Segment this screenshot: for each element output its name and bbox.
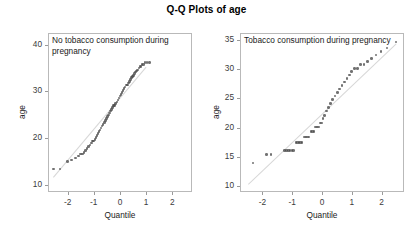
x-tick-mark bbox=[292, 192, 293, 195]
y-tick-mark bbox=[45, 138, 48, 139]
x-tick-mark bbox=[352, 192, 353, 195]
data-point bbox=[343, 81, 346, 84]
x-tick-mark bbox=[322, 192, 323, 195]
x-tick-label: -2 bbox=[250, 197, 274, 207]
data-point bbox=[70, 159, 73, 162]
data-point bbox=[346, 77, 349, 80]
x-tick-mark bbox=[94, 192, 95, 195]
data-point bbox=[77, 155, 80, 158]
x-tick-mark bbox=[146, 192, 147, 195]
data-point bbox=[331, 98, 334, 101]
data-point bbox=[126, 84, 129, 87]
data-point bbox=[317, 126, 320, 129]
data-point bbox=[327, 106, 330, 109]
data-point bbox=[348, 74, 351, 77]
x-tick-mark bbox=[262, 192, 263, 195]
qq-plot-figure: Q-Q Plots of age No tobacco consumption … bbox=[0, 0, 413, 235]
data-point bbox=[301, 141, 304, 144]
data-point bbox=[375, 54, 378, 57]
data-point bbox=[370, 57, 373, 60]
x-tick-label: 1 bbox=[340, 197, 364, 207]
data-point bbox=[265, 153, 268, 156]
data-point bbox=[74, 157, 77, 160]
data-point bbox=[366, 60, 369, 63]
x-tick-label: 1 bbox=[134, 197, 158, 207]
x-tick-mark bbox=[382, 192, 383, 195]
y-tick-label: 35 bbox=[208, 34, 234, 44]
x-tick-label: -2 bbox=[56, 197, 80, 207]
y-tick-mark bbox=[237, 69, 240, 70]
y-tick-label: 20 bbox=[16, 132, 42, 142]
plot-area-right bbox=[240, 33, 404, 192]
y-tick-mark bbox=[237, 40, 240, 41]
data-point bbox=[292, 149, 295, 152]
panel-label-right: Tobacco consumption during pregnancy bbox=[244, 35, 394, 46]
y-tick-mark bbox=[237, 128, 240, 129]
data-point bbox=[336, 91, 339, 94]
y-tick-label: 30 bbox=[208, 63, 234, 73]
y-tick-label: 25 bbox=[208, 92, 234, 102]
data-point bbox=[308, 136, 311, 139]
data-point bbox=[338, 88, 341, 91]
x-tick-mark bbox=[68, 192, 69, 195]
figure-title: Q-Q Plots of age bbox=[0, 4, 413, 15]
x-tick-label: 0 bbox=[310, 197, 334, 207]
data-point bbox=[320, 122, 323, 125]
data-point bbox=[90, 142, 93, 145]
data-point bbox=[117, 99, 120, 102]
data-point bbox=[148, 61, 151, 64]
data-point bbox=[313, 130, 316, 133]
data-point bbox=[66, 160, 69, 163]
data-point bbox=[341, 84, 344, 87]
data-point bbox=[252, 162, 255, 165]
data-point bbox=[323, 114, 326, 117]
y-axis-title-right: age bbox=[211, 102, 221, 122]
x-tick-label: -1 bbox=[82, 197, 106, 207]
data-point bbox=[350, 70, 353, 73]
data-point bbox=[359, 63, 362, 66]
y-tick-mark bbox=[237, 186, 240, 187]
data-point bbox=[329, 102, 332, 105]
x-tick-label: -1 bbox=[280, 197, 304, 207]
y-tick-mark bbox=[45, 45, 48, 46]
plot-area-left bbox=[48, 33, 192, 192]
y-tick-label: 10 bbox=[208, 180, 234, 190]
y-tick-label: 10 bbox=[16, 179, 42, 189]
y-tick-mark bbox=[237, 157, 240, 158]
data-point bbox=[386, 47, 389, 50]
data-point bbox=[363, 63, 366, 66]
data-point bbox=[356, 67, 359, 70]
x-tick-label: 2 bbox=[160, 197, 184, 207]
x-tick-label: 0 bbox=[108, 197, 132, 207]
y-tick-label: 30 bbox=[16, 85, 42, 95]
data-point bbox=[136, 69, 139, 72]
data-point bbox=[380, 50, 383, 53]
y-tick-label: 15 bbox=[208, 151, 234, 161]
y-axis-title-left: age bbox=[17, 102, 27, 122]
y-tick-mark bbox=[237, 98, 240, 99]
x-tick-mark bbox=[120, 192, 121, 195]
x-tick-label: 2 bbox=[370, 197, 394, 207]
y-tick-mark bbox=[45, 91, 48, 92]
x-axis-title-left: Quantile bbox=[48, 210, 192, 220]
data-point bbox=[325, 110, 328, 113]
x-axis-title-right: Quantile bbox=[240, 210, 404, 220]
x-tick-mark bbox=[172, 192, 173, 195]
y-tick-label: 20 bbox=[208, 122, 234, 132]
y-tick-mark bbox=[45, 185, 48, 186]
y-tick-label: 40 bbox=[16, 39, 42, 49]
panel-label-left: No tobacco consumption during pregnancy bbox=[52, 35, 182, 56]
data-point bbox=[100, 127, 103, 130]
data-point bbox=[334, 95, 337, 98]
data-point bbox=[52, 168, 55, 171]
data-point bbox=[322, 117, 325, 120]
data-point bbox=[270, 153, 273, 156]
